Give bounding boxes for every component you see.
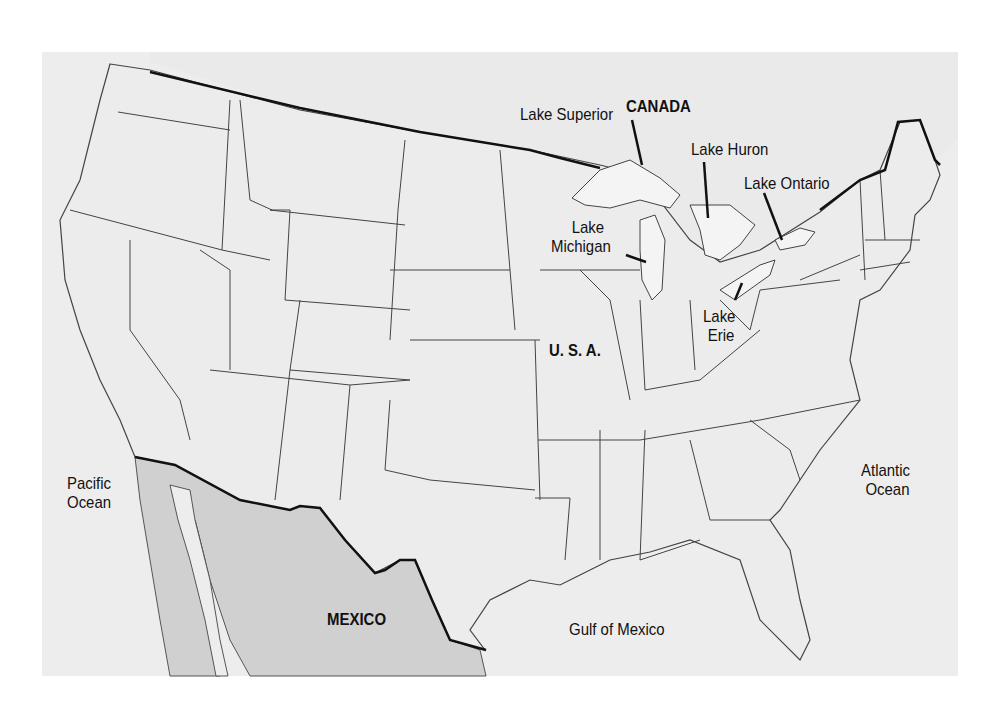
- label-atlantic-line1: Atlantic: [861, 461, 910, 480]
- label-lake-michigan: Lake Michigan: [565, 218, 611, 256]
- label-pacific-line2: Ocean: [67, 493, 111, 512]
- label-atlantic-ocean: Atlantic Ocean: [861, 461, 910, 499]
- label-lake-erie: Lake Erie: [703, 307, 735, 345]
- label-gulf-of-mexico: Gulf of Mexico: [569, 620, 665, 639]
- label-lake-superior: Lake Superior: [520, 105, 613, 124]
- label-lake-michigan-line1: Lake: [565, 218, 611, 237]
- label-pacific-ocean: Pacific Ocean: [67, 474, 111, 512]
- label-lake-erie-line1: Lake: [703, 307, 735, 326]
- label-lake-erie-line2: Erie: [707, 326, 736, 345]
- label-lake-michigan-line2: Michigan: [551, 237, 611, 256]
- label-mexico: MEXICO: [327, 610, 386, 629]
- label-canada: CANADA: [626, 97, 691, 116]
- label-lake-huron: Lake Huron: [691, 140, 768, 159]
- label-usa: U. S. A.: [549, 341, 601, 360]
- label-lake-ontario: Lake Ontario: [744, 174, 830, 193]
- label-atlantic-line2: Ocean: [865, 480, 910, 499]
- us-map: [0, 0, 1002, 714]
- label-pacific-line1: Pacific: [67, 474, 111, 493]
